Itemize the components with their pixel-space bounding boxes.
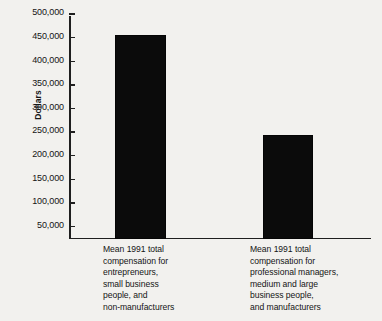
y-tick-6: 350,000	[69, 84, 75, 85]
y-tick-4: 250,000	[69, 131, 75, 132]
y-tick-label-6: 350,000	[32, 78, 64, 88]
bar-0	[115, 35, 166, 239]
category-label-1: Mean 1991 total compensation for profess…	[250, 244, 382, 314]
category-label-0: Mean 1991 total compensation for entrepr…	[103, 244, 233, 314]
y-tick-8: 450,000	[69, 37, 75, 38]
y-tick-0: 50,000	[69, 226, 75, 227]
y-tick-2: 150,000	[69, 179, 75, 180]
y-tick-3: 200,000	[69, 155, 75, 156]
y-tick-label-8: 450,000	[32, 31, 64, 41]
y-axis-line	[69, 16, 71, 239]
y-tick-label-4: 250,000	[32, 125, 64, 135]
y-tick-9: 500,000	[69, 13, 75, 14]
y-tick-label-3: 200,000	[32, 149, 64, 159]
y-tick-5: 300,000	[69, 108, 75, 109]
y-tick-label-1: 100,000	[32, 196, 64, 206]
y-tick-7: 400,000	[69, 61, 75, 62]
y-tick-label-7: 400,000	[32, 55, 64, 65]
bar-chart-figure: Dollars 50,000100,000150,000200,000250,0…	[0, 0, 382, 321]
y-tick-1: 100,000	[69, 202, 75, 203]
y-tick-label-2: 150,000	[32, 173, 64, 183]
plot-area: 50,000100,000150,000200,000250,000300,00…	[69, 14, 371, 239]
y-tick-label-9: 500,000	[32, 7, 64, 17]
bar-1	[263, 135, 313, 239]
y-tick-label-5: 300,000	[32, 102, 64, 112]
y-tick-label-0: 50,000	[37, 220, 64, 230]
